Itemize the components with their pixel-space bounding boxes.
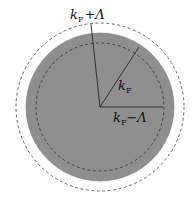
inner-radius-label: kF−Λ xyxy=(113,110,147,127)
fermi-sphere-diagram: kF+Λ kF kF−Λ xyxy=(0,0,194,205)
outer-radius-label: kF+Λ xyxy=(70,7,105,24)
